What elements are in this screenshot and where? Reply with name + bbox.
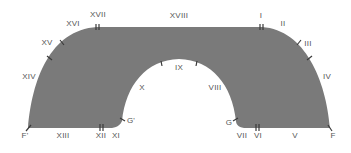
point-G-prime: G' [127, 117, 135, 125]
label-III: III [304, 40, 311, 48]
label-IV: IV [323, 73, 331, 81]
label-XIII: XIII [57, 132, 70, 140]
label-X: X [139, 84, 145, 92]
label-V: V [292, 132, 298, 140]
label-II: II [281, 20, 286, 28]
point-F-prime: F' [22, 132, 29, 140]
label-VIII: VIII [209, 84, 222, 92]
label-I: I [260, 12, 262, 20]
arch-diagram [0, 0, 351, 153]
label-VI: VI [254, 132, 262, 140]
label-IX: IX [175, 64, 183, 72]
point-F: F [330, 132, 335, 140]
arch-shape [28, 27, 330, 128]
label-VII: VII [237, 132, 247, 140]
label-XI: XI [112, 132, 120, 140]
point-G: G [226, 119, 232, 127]
label-XVI: XVI [66, 20, 80, 28]
label-XVII: XVII [90, 11, 106, 19]
label-XVIII: XVIII [170, 12, 188, 20]
label-XIV: XIV [22, 73, 36, 81]
label-XII: XII [96, 132, 106, 140]
label-XV: XV [41, 39, 52, 47]
